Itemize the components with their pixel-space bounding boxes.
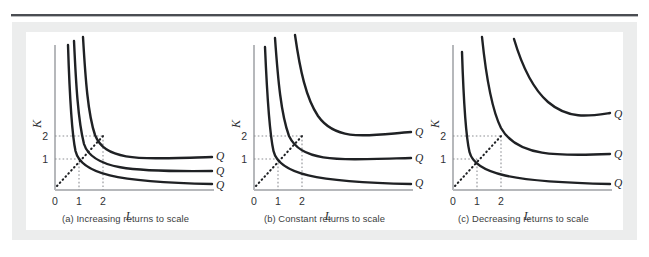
y-axis-label-a: K (30, 119, 44, 129)
figure-plate: K L 2 1 0 1 2 Q = 3 Q = 2 Q = 1 (a) Incr… (26, 32, 623, 230)
curve-label-q3-b: Q = 3 (415, 126, 424, 138)
curve-label-q1-c: Q = 1 (614, 177, 623, 189)
x-tick-2-a: 2 (100, 195, 106, 207)
curve-label-q3-a: Q = 3 (216, 150, 225, 162)
y-tick-1-b: 1 (241, 153, 247, 165)
curve-label-q2-b: Q = 2 (415, 152, 424, 164)
isoquant-q2-a (74, 41, 212, 171)
y-tick-2-b: 2 (241, 130, 247, 142)
x-tick-1-b: 1 (275, 195, 281, 207)
x-tick-0-a: 0 (52, 195, 58, 207)
y-tick-1-c: 1 (440, 153, 446, 165)
panel-b-caption: (b) Constant returns to scale (225, 213, 424, 224)
y-tick-1-a: 1 (42, 153, 48, 165)
curve-label-q3-c: Q = 3 (614, 108, 623, 120)
isoquant-q1-b (265, 47, 411, 184)
x-tick-2-c: 2 (498, 195, 504, 207)
top-divider-shadow (11, 16, 638, 17)
panel-c-caption: (c) Decreasing returns to scale (424, 213, 623, 224)
chart-a: K L 2 1 0 1 2 Q = 3 Q = 2 Q = 1 (26, 32, 225, 230)
x-tick-2-b: 2 (299, 195, 305, 207)
y-tick-2-c: 2 (440, 130, 446, 142)
curve-label-q1-b: Q = 1 (415, 177, 424, 189)
isoquant-q3-c (514, 39, 610, 116)
x-tick-1-c: 1 (474, 195, 480, 207)
panel-c-decreasing-returns: K L 2 1 0 1 2 Q = 3 Q = 2 Q = 1 (c) Decr… (424, 32, 623, 230)
curve-label-q2-a: Q = 2 (216, 165, 225, 177)
isoquant-q3-a (83, 37, 212, 158)
chart-b: K L 2 1 0 1 2 Q = 3 Q = 2 Q = 1 (225, 32, 424, 230)
y-axis-label-c: K (428, 119, 442, 129)
panel-a-caption: (a) Increasing returns to scale (26, 213, 225, 224)
curve-label-q2-c: Q = 2 (614, 148, 623, 160)
expansion-path-c (455, 135, 502, 186)
panel-a-increasing-returns: K L 2 1 0 1 2 Q = 3 Q = 2 Q = 1 (a) Incr… (26, 32, 225, 230)
y-tick-2-a: 2 (42, 130, 48, 142)
isoquant-q1-c (462, 52, 610, 184)
x-tick-0-c: 0 (450, 195, 456, 207)
figure-root: K L 2 1 0 1 2 Q = 3 Q = 2 Q = 1 (a) Incr… (0, 0, 649, 257)
chart-c: K L 2 1 0 1 2 Q = 3 Q = 2 Q = 1 (424, 32, 623, 230)
x-tick-0-b: 0 (251, 195, 257, 207)
y-axis-label-b: K (229, 119, 243, 129)
curve-label-q1-a: Q = 1 (216, 179, 225, 191)
isoquant-q3-b (295, 35, 411, 135)
x-tick-1-a: 1 (76, 195, 82, 207)
isoquant-q2-b (275, 38, 411, 159)
panel-b-constant-returns: K L 2 1 0 1 2 Q = 3 Q = 2 Q = 1 (b) Cons… (225, 32, 424, 230)
